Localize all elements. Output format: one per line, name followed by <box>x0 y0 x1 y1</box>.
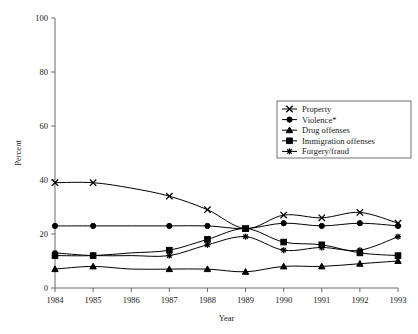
x-tick-label: 1984 <box>47 295 65 305</box>
data-point-marker <box>91 223 96 228</box>
x-tick-label: 1990 <box>275 295 292 305</box>
data-point-marker <box>166 193 172 199</box>
chart-figure: 020406080100 198419851986198719881989199… <box>0 0 418 334</box>
data-point-marker <box>281 247 287 253</box>
x-tick-label: 1985 <box>85 295 102 305</box>
data-point-marker <box>357 247 363 253</box>
x-axis-title: Year <box>219 313 235 323</box>
y-axis-title: Percent <box>13 140 23 166</box>
data-point-marker <box>395 223 400 228</box>
data-point-marker <box>52 250 58 256</box>
legend-item-label: Violence* <box>302 115 336 125</box>
y-axis: 020406080100 <box>35 13 55 293</box>
legend-marker-icon <box>287 138 293 144</box>
y-tick-label: 100 <box>35 13 48 23</box>
data-point-marker <box>243 226 249 232</box>
data-point-marker <box>167 247 173 253</box>
data-point-marker <box>319 223 324 228</box>
legend-item-label: Forgery/fraud <box>302 146 350 156</box>
series-immigration-offenses <box>52 226 401 259</box>
legend-item-label: Immigration offenses <box>302 136 375 146</box>
x-axis: 1984198519861987198819891990199119921993 <box>47 288 407 305</box>
legend-marker-icon <box>287 148 293 154</box>
data-point-marker <box>205 237 211 243</box>
data-point-marker <box>204 242 210 248</box>
series-container <box>52 180 401 275</box>
y-tick-label: 80 <box>40 67 49 77</box>
x-tick-label: 1986 <box>123 295 140 305</box>
data-point-marker <box>395 234 401 240</box>
y-tick-label: 0 <box>44 283 48 293</box>
data-point-marker <box>90 253 96 259</box>
data-point-marker <box>281 239 287 245</box>
chart-legend: PropertyViolence*Drug offensesImmigratio… <box>277 101 411 158</box>
data-point-marker <box>52 223 57 228</box>
series-violence <box>52 221 400 232</box>
data-point-marker <box>167 223 172 228</box>
x-tick-label: 1988 <box>199 295 216 305</box>
series-drug-offenses <box>52 258 401 275</box>
data-point-marker <box>204 207 210 213</box>
y-tick-label: 20 <box>40 229 49 239</box>
legend-item-label: Property <box>302 104 332 114</box>
y-tick-label: 60 <box>40 121 49 131</box>
data-point-marker <box>205 223 210 228</box>
data-point-marker <box>357 221 362 226</box>
x-tick-label: 1987 <box>161 295 178 305</box>
legend-item-label: Drug offenses <box>302 125 350 135</box>
x-tick-label: 1993 <box>390 295 407 305</box>
y-tick-label: 40 <box>40 175 49 185</box>
data-point-marker <box>243 234 249 240</box>
data-point-marker <box>281 221 286 226</box>
data-point-marker <box>319 245 325 251</box>
x-tick-label: 1992 <box>351 295 368 305</box>
x-tick-label: 1991 <box>313 295 330 305</box>
x-tick-label: 1989 <box>237 295 254 305</box>
line-chart-svg: 020406080100 198419851986198719881989199… <box>0 0 418 334</box>
data-point-marker <box>166 253 172 259</box>
legend-marker-icon <box>287 117 292 122</box>
data-point-marker <box>395 253 401 259</box>
